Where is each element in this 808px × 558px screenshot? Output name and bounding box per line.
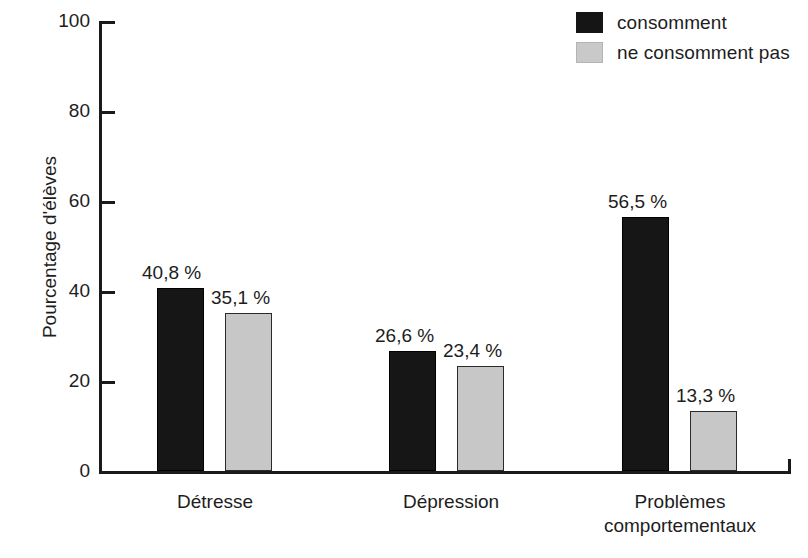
bar-value-detresse-consomment: 40,8 % xyxy=(142,263,201,282)
y-tick-label-20: 20 xyxy=(30,371,90,390)
legend-swatch-dark-icon xyxy=(576,12,603,33)
bar-value-problemes-comportementaux-consomment: 56,5 % xyxy=(608,192,667,211)
y-tick-label-40: 40 xyxy=(30,281,90,300)
y-tick-20 xyxy=(99,381,115,384)
y-tick-label-60: 60 xyxy=(30,191,90,210)
bar-value-depression-ne-consomment-pas: 23,4 % xyxy=(443,341,502,360)
bar-depression-ne-consomment-pas xyxy=(457,366,504,471)
y-tick-label-0: 0 xyxy=(30,461,90,480)
chart-legend: consomment ne consomment pas xyxy=(576,9,806,69)
x-category-label-depression: Dépression xyxy=(366,490,536,514)
y-tick-100 xyxy=(99,21,115,24)
y-axis-line xyxy=(99,21,102,474)
bar-depression-consomment xyxy=(389,351,436,471)
bar-detresse-ne-consomment-pas xyxy=(225,313,272,471)
legend-label-consomment: consomment xyxy=(617,12,727,33)
legend-item-consomment: consomment xyxy=(576,9,806,35)
x-category-label-detresse: Détresse xyxy=(135,490,295,514)
legend-swatch-light-icon xyxy=(576,42,603,63)
y-tick-80 xyxy=(99,111,115,114)
bar-value-detresse-ne-consomment-pas: 35,1 % xyxy=(211,288,270,307)
bar-value-problemes-comportementaux-ne-consomment-pas: 13,3 % xyxy=(676,386,735,405)
legend-item-ne-consomment-pas: ne consomment pas xyxy=(576,39,806,65)
bar-detresse-consomment xyxy=(157,288,204,471)
y-tick-label-80: 80 xyxy=(30,101,90,120)
y-tick-40 xyxy=(99,291,115,294)
y-tick-label-100: 100 xyxy=(30,11,90,30)
bar-problemes-comportementaux-consomment xyxy=(622,217,669,471)
bar-value-depression-consomment: 26,6 % xyxy=(375,326,434,345)
y-axis-title: Pourcentage d'élèves xyxy=(39,117,61,377)
bar-problemes-comportementaux-ne-consomment-pas xyxy=(690,411,737,471)
x-category-label-problemes-comportementaux: Problèmes comportementaux xyxy=(590,490,770,538)
y-tick-60 xyxy=(99,201,115,204)
x-axis-line xyxy=(99,471,791,474)
bar-chart: consomment ne consomment pas Pourcentage… xyxy=(0,0,808,558)
legend-label-ne-consomment-pas: ne consomment pas xyxy=(617,42,790,63)
x-axis-end-cap xyxy=(788,459,791,474)
